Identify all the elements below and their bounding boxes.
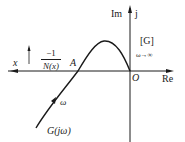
nyquist-diagram: Im j x −1 N(x) A [G] ω→∞ O Re ω G(jω) (0, 0, 185, 142)
origin-label: O (132, 73, 139, 83)
x-increase-arrow-icon (28, 45, 31, 51)
plane-label: [G] (140, 36, 154, 46)
x-label: x (13, 58, 17, 68)
fraction-numerator: −1 (41, 48, 61, 60)
diagram-graphics (0, 0, 185, 142)
curve-label: G(jω) (47, 126, 71, 136)
limit-label: ω→∞ (136, 52, 153, 59)
imag-unit-label: j (135, 9, 138, 19)
intersection-label: A (70, 58, 76, 68)
real-axis-label: Re (162, 74, 173, 84)
imag-axis-label: Im (111, 9, 122, 19)
imag-axis-arrow-icon (128, 5, 132, 13)
fraction-denominator: N(x) (36, 60, 66, 71)
negative-inverse-describing-function: −1 N(x) (36, 48, 66, 71)
omega-direction-label: ω (60, 98, 66, 107)
x-axis-arrow-icon (10, 69, 18, 73)
